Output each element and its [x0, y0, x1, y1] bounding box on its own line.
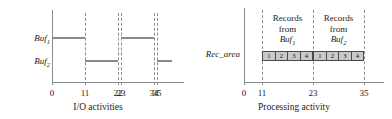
annotation-group-2-source-text: Buf: [331, 34, 344, 44]
record-group-buf1: 1 2 3 4: [262, 51, 313, 61]
record-box[interactable]: 2: [275, 51, 289, 61]
right-tick-23: [313, 82, 314, 85]
annotation-group-1-line2: from: [262, 24, 313, 35]
record-box[interactable]: 2: [326, 51, 340, 61]
right-ticklabel-35: 35: [354, 89, 374, 98]
left-tick-0: [52, 82, 53, 85]
annotation-group-2: Records from Buf2: [313, 13, 364, 48]
left-bar-buf1-seg1: [52, 37, 85, 39]
annotation-group-1-source: Buf1: [262, 34, 313, 48]
record-box[interactable]: 4: [300, 51, 314, 61]
panel-io-activities: Buf1 Buf2 0 11 22 23 34 35 I/O activitie…: [0, 0, 196, 119]
right-tick-0: [244, 82, 245, 85]
annotation-group-2-source-sub: 2: [343, 39, 346, 46]
left-gridline-35: [157, 13, 158, 85]
left-tick-35: [157, 82, 158, 85]
right-row-label-rec-area-text: Rec_area: [206, 49, 240, 59]
left-ticklabel-35: 35: [147, 89, 167, 98]
left-ticklabel-11: 11: [75, 89, 95, 98]
annotation-group-1: Records from Buf1: [262, 13, 313, 48]
left-ticklabel-23: 23: [111, 89, 131, 98]
annotation-group-2-line2: from: [313, 24, 364, 35]
left-row-label-buf2-text: Buf: [34, 56, 47, 66]
annotation-group-1-source-sub: 1: [292, 39, 295, 46]
left-tick-11: [85, 82, 86, 85]
left-ticklabel-0: 0: [42, 89, 62, 98]
annotation-group-1-line1: Records: [262, 13, 313, 24]
right-tick-11: [262, 82, 263, 85]
left-gridline-34: [154, 13, 155, 85]
left-tick-34: [154, 82, 155, 85]
left-row-label-buf2-sub: 2: [47, 61, 50, 68]
right-x-axis: [244, 82, 384, 83]
right-row-label-rec-area: Rec_area: [196, 50, 240, 59]
panel-processing-activity: Rec_area Records from Buf1 Records from …: [196, 0, 392, 119]
left-row-label-buf1-sub: 1: [47, 38, 50, 45]
right-y-axis: [244, 8, 245, 82]
left-gridline-11: [85, 13, 86, 85]
record-box[interactable]: 1: [313, 51, 327, 61]
annotation-group-2-source: Buf2: [313, 34, 364, 48]
annotation-group-1-source-text: Buf: [280, 34, 293, 44]
right-ticklabel-23: 23: [303, 89, 323, 98]
right-x-axis-title: Processing activity: [196, 102, 392, 112]
right-gridline-35: [364, 10, 365, 85]
left-gridline-23: [121, 13, 122, 85]
left-tick-23: [121, 82, 122, 85]
left-y-axis: [52, 10, 53, 82]
record-box[interactable]: 3: [338, 51, 352, 61]
figure-root: Buf1 Buf2 0 11 22 23 34 35 I/O activitie…: [0, 0, 392, 119]
right-tick-35: [364, 82, 365, 85]
annotation-group-2-line1: Records: [313, 13, 364, 24]
left-row-label-buf2: Buf2: [6, 57, 50, 69]
left-bar-buf2-seg1: [85, 60, 118, 62]
record-box[interactable]: 1: [262, 51, 276, 61]
right-ticklabel-11: 11: [252, 89, 272, 98]
left-row-label-buf1: Buf1: [6, 34, 50, 46]
record-box[interactable]: 4: [351, 51, 365, 61]
left-x-axis-title: I/O activities: [0, 102, 196, 112]
left-gridline-22: [118, 13, 119, 85]
left-row-label-buf1-text: Buf: [34, 33, 47, 43]
left-bar-buf1-seg2: [121, 37, 154, 39]
right-ticklabel-0: 0: [234, 89, 254, 98]
left-bar-buf2-seg2: [157, 60, 172, 62]
left-tick-22: [118, 82, 119, 85]
record-box[interactable]: 3: [287, 51, 301, 61]
record-group-buf2: 1 2 3 4: [313, 51, 364, 61]
